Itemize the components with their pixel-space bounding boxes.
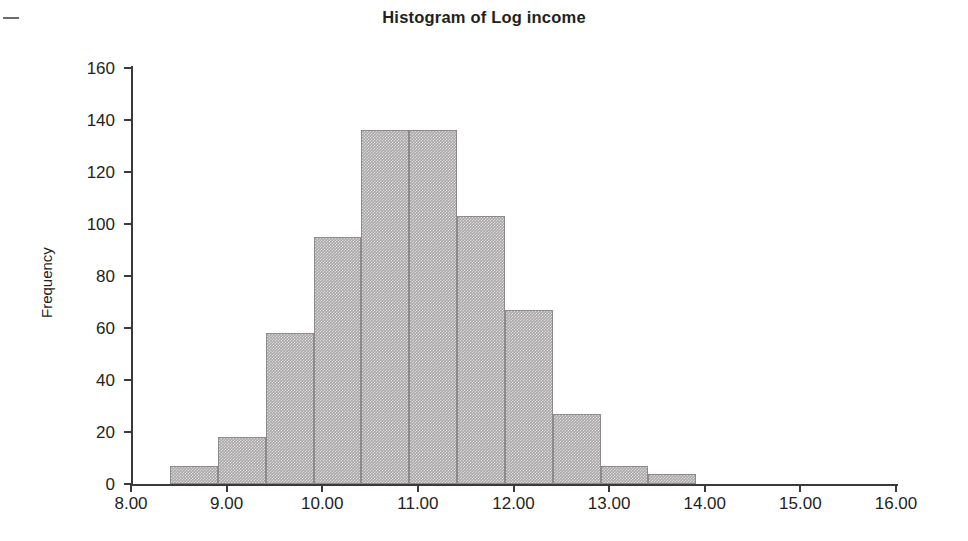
x-axis-tick-label: 12.00 [474,494,554,514]
x-axis-tick [226,484,228,492]
y-axis-tick-label: 120 [45,163,115,183]
x-axis-tick [895,484,897,492]
y-axis-tick-label: 0 [45,475,115,495]
y-axis-tick [124,119,131,121]
x-axis-tick [417,484,419,492]
y-axis-tick-label: 140 [45,111,115,131]
histogram-figure: Histogram of Log income Frequency 020406… [0,0,968,541]
histogram-bar [648,474,696,484]
x-axis-tick-label: 8.00 [91,494,171,514]
y-axis-tick-label: 20 [45,423,115,443]
x-axis-line [131,484,898,486]
x-axis-tick [321,484,323,492]
x-axis-tick-label: 9.00 [187,494,267,514]
x-axis-tick-label: 15.00 [760,494,840,514]
x-axis-tick-label: 10.00 [282,494,362,514]
y-axis-tick [124,327,131,329]
histogram-bar [314,237,362,484]
x-axis-tick-label: 13.00 [569,494,649,514]
x-axis-tick [799,484,801,492]
x-axis-tick-label: 11.00 [378,494,458,514]
histogram-bar [266,333,314,484]
histogram-bar [601,466,649,484]
x-axis-tick [130,484,132,492]
y-axis-tick [124,67,131,69]
histogram-bar [409,130,457,484]
histogram-bar [553,414,601,484]
y-axis-tick-label: 160 [45,59,115,79]
y-axis-tick [124,223,131,225]
x-axis-tick [704,484,706,492]
histogram-bar [361,130,409,484]
plot-area: 0204060801001201401608.009.0010.0011.001… [131,68,896,484]
y-axis-tick-label: 100 [45,215,115,235]
y-axis-tick-label: 80 [45,267,115,287]
y-axis-tick [124,431,131,433]
histogram-bar [505,310,553,484]
y-axis-tick [124,275,131,277]
x-axis-tick-label: 16.00 [856,494,936,514]
chart-title: Histogram of Log income [0,8,968,27]
histogram-bar [457,216,505,484]
y-axis-tick-label: 40 [45,371,115,391]
y-axis-tick [124,379,131,381]
x-axis-tick [513,484,515,492]
y-axis-tick-label: 60 [45,319,115,339]
histogram-bar [218,437,266,484]
histogram-bar [170,466,218,484]
y-axis-tick [124,171,131,173]
x-axis-tick-label: 14.00 [665,494,745,514]
x-axis-tick [608,484,610,492]
